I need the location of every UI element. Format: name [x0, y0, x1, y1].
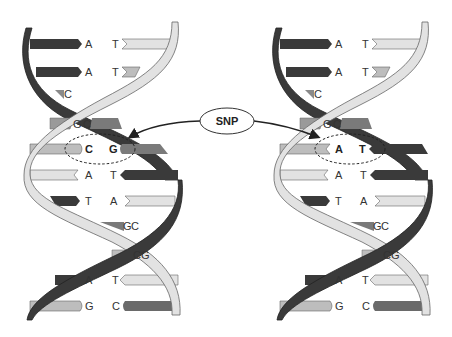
- rung-light: [125, 196, 175, 206]
- base-label: G: [85, 300, 94, 312]
- rung-mid: [90, 118, 122, 129]
- rung-light: [372, 67, 390, 77]
- base-label: C: [383, 249, 391, 261]
- base-label: C: [333, 118, 341, 130]
- snp-label: SNP: [216, 115, 239, 127]
- base-label: A: [335, 169, 343, 181]
- rung-light: [280, 170, 328, 180]
- snp-base-label: G: [109, 143, 118, 155]
- rung-mid: [305, 90, 314, 99]
- rung-mid: [373, 301, 428, 311]
- rung-dark: [369, 144, 428, 154]
- snp-arrow-left: [130, 121, 200, 137]
- rung-dark: [36, 67, 82, 77]
- base-label: T: [85, 195, 92, 207]
- base-label: T: [112, 66, 119, 78]
- rung-light: [122, 67, 140, 77]
- base-label: T: [112, 274, 119, 286]
- base-label: C: [133, 249, 141, 261]
- rung-dark: [280, 39, 332, 49]
- rung-dark: [30, 39, 82, 49]
- base-label: A: [335, 66, 343, 78]
- rung-mid: [120, 144, 168, 154]
- base-label: C: [362, 300, 370, 312]
- base-label: A: [85, 169, 93, 181]
- base-label: G: [391, 249, 400, 261]
- base-label: T: [362, 66, 369, 78]
- base-label: T: [362, 38, 369, 50]
- snp-callout: SNP: [130, 108, 318, 137]
- rung-dark: [286, 67, 332, 77]
- base-label: G: [73, 118, 82, 130]
- base-label: T: [362, 274, 369, 286]
- base-label: G: [323, 118, 332, 130]
- rung-mid: [55, 90, 64, 99]
- base-label: T: [110, 169, 117, 181]
- base-label: G: [335, 300, 344, 312]
- base-label: C: [64, 88, 72, 100]
- base-label: C: [381, 220, 389, 232]
- rung-light: [375, 196, 425, 206]
- rung-light: [30, 170, 78, 180]
- base-label: A: [85, 38, 93, 50]
- rung-dark: [120, 170, 178, 180]
- base-label: A: [85, 66, 93, 78]
- snp-base-label: A: [335, 143, 343, 155]
- base-label: C: [131, 220, 139, 232]
- base-label: A: [85, 274, 93, 286]
- base-label: G: [141, 249, 150, 261]
- left-helix: A T A T C G C C G A T T A G C C G A T G …: [23, 22, 183, 320]
- base-label: A: [360, 195, 368, 207]
- base-label: T: [112, 38, 119, 50]
- rung-mid: [340, 118, 372, 129]
- rung-mid: [123, 301, 178, 311]
- base-label: C: [112, 300, 120, 312]
- snp-diagram: A T A T C G C C G A T T A G C C G A T G …: [0, 0, 452, 337]
- base-label: A: [110, 195, 118, 207]
- base-label: T: [335, 195, 342, 207]
- right-helix: A T A T C G C A T A T T A G C C G A T G …: [273, 22, 433, 320]
- snp-base-label: C: [85, 143, 93, 155]
- rung-dark: [370, 170, 428, 180]
- base-label: C: [83, 118, 91, 130]
- base-label: T: [360, 169, 367, 181]
- snp-base-label: T: [359, 143, 366, 155]
- base-label: A: [335, 274, 343, 286]
- base-label: A: [335, 38, 343, 50]
- base-label: C: [314, 88, 322, 100]
